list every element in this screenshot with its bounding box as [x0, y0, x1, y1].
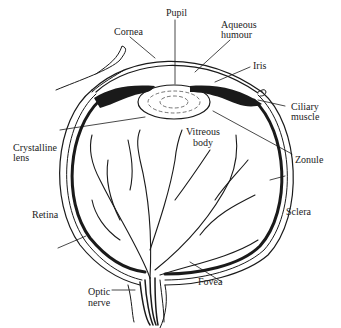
label-sclera: Sclera	[286, 207, 311, 217]
label-retina: Retina	[32, 210, 58, 220]
label-ciliary-muscle-2: muscle	[291, 112, 319, 122]
label-crystalline-lens-2: lens	[13, 153, 29, 163]
label-cornea: Cornea	[114, 27, 143, 37]
label-pupil: Pupil	[166, 8, 187, 18]
label-fovea: Fovea	[198, 277, 222, 287]
label-zonule: Zonule	[295, 155, 323, 165]
label-vitreous-body-2: body	[193, 138, 213, 148]
label-optic-nerve-2: nerve	[88, 298, 110, 308]
eye-diagram	[0, 0, 341, 328]
label-vitreous-body-1: Vitreous	[186, 127, 220, 137]
label-optic-nerve-1: Optic	[88, 287, 110, 297]
label-aqueous-humour-2: humour	[221, 30, 252, 40]
label-iris: Iris	[253, 61, 266, 71]
